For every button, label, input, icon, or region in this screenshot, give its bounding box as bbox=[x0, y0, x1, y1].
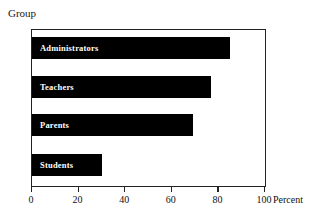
x-axis-tick bbox=[78, 186, 79, 192]
x-axis-tick-label: 0 bbox=[29, 194, 34, 206]
x-axis: 020406080100 bbox=[31, 186, 264, 220]
plot-area: AdministratorsTeachersParentsStudents bbox=[31, 29, 266, 187]
bar-chart-figure: Group AdministratorsTeachersParentsStude… bbox=[0, 0, 330, 223]
y-axis-caption: Group bbox=[8, 6, 36, 20]
x-axis-tick bbox=[171, 186, 172, 192]
x-axis-tick-label: 100 bbox=[257, 194, 272, 206]
bar bbox=[32, 37, 230, 59]
bar bbox=[32, 114, 193, 136]
x-axis-tick bbox=[124, 186, 125, 192]
x-axis-tick-label: 20 bbox=[73, 194, 83, 206]
bar-series: AdministratorsTeachersParentsStudents bbox=[32, 30, 265, 186]
x-axis-tick-label: 60 bbox=[166, 194, 176, 206]
x-axis-tick bbox=[264, 186, 265, 192]
x-axis-tick bbox=[217, 186, 218, 192]
x-axis-tick-label: 40 bbox=[119, 194, 129, 206]
x-axis-tick bbox=[31, 186, 32, 192]
x-axis-caption: Percent bbox=[273, 194, 303, 206]
bar bbox=[32, 154, 102, 176]
x-axis-tick-label: 80 bbox=[212, 194, 222, 206]
bar bbox=[32, 76, 211, 98]
